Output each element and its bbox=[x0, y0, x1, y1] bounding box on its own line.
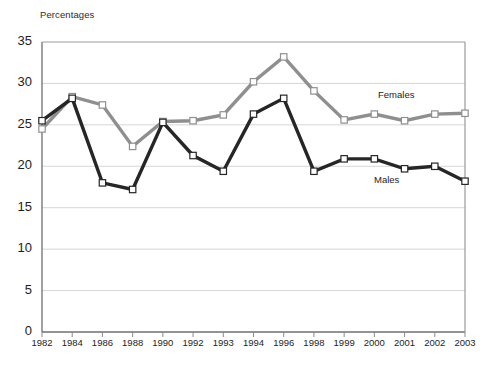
x-tick-1988: 1988 bbox=[122, 337, 143, 348]
y-tick-10: 10 bbox=[6, 240, 32, 255]
series-annotation-males: Males bbox=[374, 174, 399, 185]
y-tick-5: 5 bbox=[6, 282, 32, 297]
x-tick-2001: 2001 bbox=[394, 337, 415, 348]
x-tick-1994: 1994 bbox=[243, 337, 264, 348]
x-tick-1998: 1998 bbox=[303, 337, 324, 348]
x-tick-1990: 1990 bbox=[152, 337, 173, 348]
plot-area bbox=[0, 0, 495, 372]
x-tick-1984: 1984 bbox=[62, 337, 83, 348]
y-tick-20: 20 bbox=[6, 157, 32, 172]
x-tick-1982: 1982 bbox=[31, 337, 52, 348]
y-axis-title: Percentages bbox=[40, 9, 94, 20]
series-annotation-females: Females bbox=[378, 89, 414, 100]
y-tick-25: 25 bbox=[6, 116, 32, 131]
x-tick-1996: 1996 bbox=[273, 337, 294, 348]
y-tick-0: 0 bbox=[6, 323, 32, 338]
line-chart: Percentages 05101520253035 1982198419861… bbox=[0, 0, 495, 372]
x-tick-2000: 2000 bbox=[364, 337, 385, 348]
x-tick-1999: 1999 bbox=[334, 337, 355, 348]
x-tick-2003: 2003 bbox=[454, 337, 475, 348]
x-tick-1992: 1992 bbox=[182, 337, 203, 348]
x-axis-tick-labels: 1982198419861988199019921993199419961998… bbox=[0, 337, 495, 357]
x-tick-1986: 1986 bbox=[92, 337, 113, 348]
x-tick-2002: 2002 bbox=[424, 337, 445, 348]
x-tick-1993: 1993 bbox=[213, 337, 234, 348]
y-tick-30: 30 bbox=[6, 74, 32, 89]
y-tick-15: 15 bbox=[6, 199, 32, 214]
y-tick-35: 35 bbox=[6, 33, 32, 48]
y-axis-tick-labels: 05101520253035 bbox=[2, 0, 32, 372]
data-series-layer bbox=[39, 54, 468, 193]
